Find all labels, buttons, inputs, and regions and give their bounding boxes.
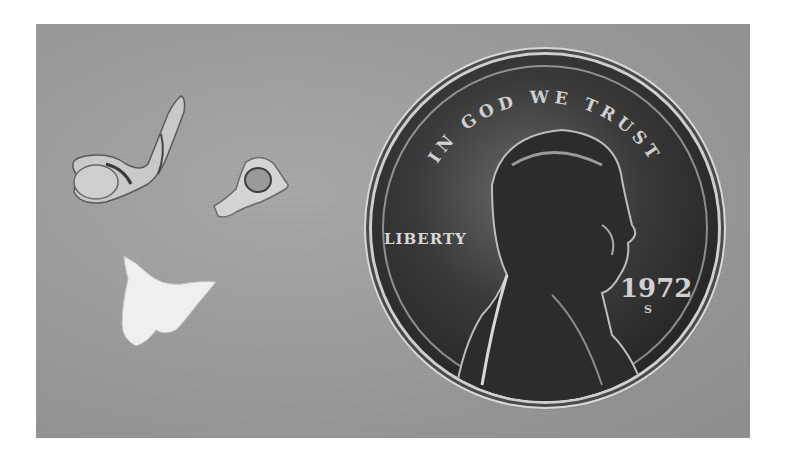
lincoln-bust [452,125,652,401]
coin-liberty-text: LIBERTY [384,230,467,248]
photograph: IN GOD WE TRUST LIBERTY 1972 S [36,24,750,438]
bone-fragment-elongated [73,96,185,203]
coin-year: 1972 [620,273,692,303]
coin-mint-mark: S [644,303,652,316]
bone-ring [214,157,288,216]
penny-coin: IN GOD WE TRUST LIBERTY 1972 S [372,55,718,401]
bone-triangular [122,256,216,346]
